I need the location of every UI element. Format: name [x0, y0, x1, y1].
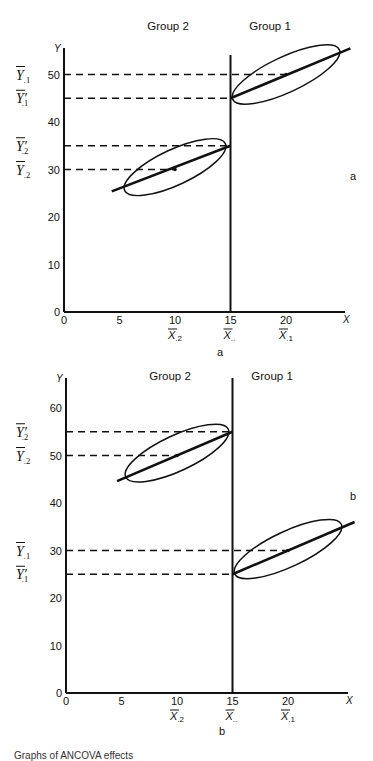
x-mean-label: X..: [223, 329, 236, 343]
group-2-label: Group 2: [147, 20, 189, 32]
panel-label: b: [219, 725, 225, 737]
x-mean-label: X.2: [167, 329, 183, 343]
x-mean-label: X.1: [280, 710, 296, 724]
x-tick-label: 20: [282, 695, 294, 707]
group-1-label: Group 1: [249, 20, 291, 32]
y-tick-label: 10: [50, 640, 62, 652]
panel-label: a: [217, 346, 224, 358]
x-mean-label: X.2: [169, 710, 185, 724]
y-tick-label: 30: [50, 545, 62, 557]
y-mean-label: Y.1: [16, 68, 30, 85]
panel-side-annotation: b: [350, 490, 356, 502]
y-mean-label: Y′.1: [16, 567, 28, 584]
x-tick-label: 15: [224, 314, 236, 326]
x-tick-label: 10: [171, 695, 183, 707]
y-tick-label: 20: [50, 592, 62, 604]
y-tick-label: 40: [48, 116, 60, 128]
y-mean-label: Y.1: [16, 544, 30, 561]
chart-panel-a: YX0102030405005101520X.2X..X.1Y.1Y′.1Y′.…: [16, 20, 357, 358]
regression-line: [112, 146, 231, 192]
x-tick-label: 5: [116, 314, 122, 326]
group-ellipse: [118, 413, 236, 493]
y-tick-label: 0: [56, 687, 62, 699]
y-tick-label: 40: [50, 497, 62, 509]
regression-line: [231, 48, 351, 98]
x-tick-label: 0: [63, 695, 69, 707]
y-tick-label: 30: [48, 164, 60, 176]
x-mean-label: X.1: [278, 329, 294, 343]
y-tick-label: 50: [48, 69, 60, 81]
group-mean-point: [175, 454, 179, 458]
x-tick-label: 5: [118, 695, 124, 707]
x-tick-label: 10: [169, 314, 181, 326]
x-axis-label: X: [345, 695, 353, 706]
chart-panel-b: YX010203040506005101520X.2X..X.1Y′.2Y.2Y…: [16, 370, 356, 737]
group-mean-point: [173, 168, 177, 172]
group-1-label: Group 1: [251, 370, 293, 382]
y-tick-label: 0: [54, 306, 60, 318]
y-mean-label: Y′.1: [16, 91, 28, 108]
y-tick-label: 60: [50, 402, 62, 414]
y-tick-label: 50: [50, 450, 62, 462]
x-axis-label: X: [342, 314, 350, 325]
y-axis-label: Y: [56, 373, 64, 384]
group-2-label: Group 2: [149, 370, 191, 382]
y-axis-label: Y: [54, 43, 62, 54]
y-tick-label: 20: [48, 211, 60, 223]
x-tick-label: 20: [280, 314, 292, 326]
y-mean-label: Y′.2: [16, 425, 28, 442]
group-mean-point: [284, 73, 288, 77]
y-mean-label: Y.2: [16, 449, 30, 466]
group-mean-point: [286, 549, 290, 553]
x-tick-label: 0: [61, 314, 67, 326]
y-tick-label: 10: [48, 259, 60, 271]
y-mean-label: Y.2: [16, 163, 30, 180]
x-tick-label: 15: [226, 695, 238, 707]
y-mean-label: Y′.2: [16, 139, 28, 156]
figure-caption: Graphs of ANCOVA effects: [14, 750, 133, 761]
panel-side-annotation: a: [350, 170, 357, 182]
x-mean-label: X..: [225, 710, 238, 724]
